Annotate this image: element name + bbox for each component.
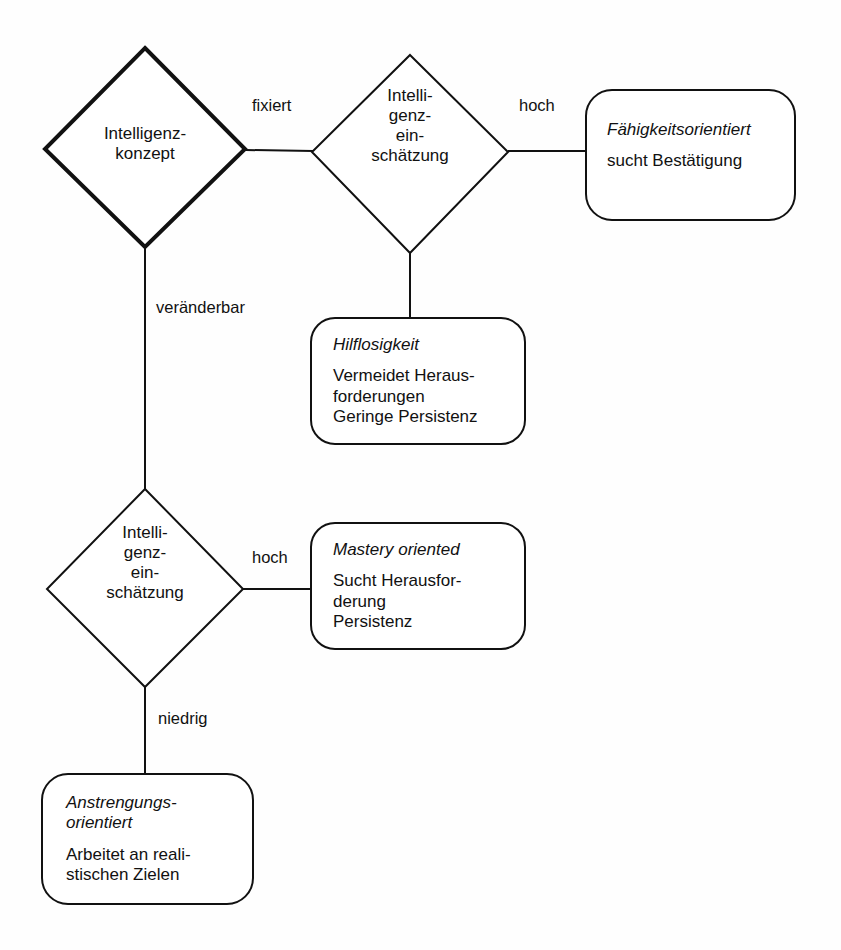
node-assessment-malleable-shape[interactable] xyxy=(47,489,243,687)
edge-label-fixiert: fixiert xyxy=(252,96,291,115)
ability-text-gap xyxy=(607,140,787,151)
node-outcome-effort-text: Anstrengungs- orientiert Arbeitet an rea… xyxy=(66,793,251,886)
node-outcome-effort-body: Arbeitet an reali- stischen Zielen xyxy=(66,845,251,886)
node-outcome-mastery-text: Mastery oriented Sucht Herausfor- derung… xyxy=(333,540,518,633)
edge-label-niedrig: niedrig xyxy=(158,709,208,728)
flowchart-canvas: Intelligenz- konzept Intelli- genz- ein-… xyxy=(0,0,841,950)
node-outcome-mastery-title: Mastery oriented xyxy=(333,540,518,560)
node-outcome-helpless-body: Vermeidet Heraus- forderungen Geringe Pe… xyxy=(333,366,518,427)
helpless-text-gap xyxy=(333,355,518,366)
edge-label-hoch-malleable: hoch xyxy=(252,548,288,567)
node-outcome-ability-title: Fähigkeitsorientiert xyxy=(607,120,787,140)
node-outcome-helpless-title: Hilflosigkeit xyxy=(333,335,518,355)
node-outcome-ability-text: Fähigkeitsorientiert sucht Bestätigung xyxy=(607,120,787,172)
mastery-text-gap xyxy=(333,560,518,571)
node-outcome-mastery-body: Sucht Herausfor- derung Persistenz xyxy=(333,571,518,632)
node-root-decision-shape[interactable] xyxy=(45,48,245,247)
node-outcome-effort-title: Anstrengungs- orientiert xyxy=(66,793,251,834)
effort-text-gap xyxy=(66,834,251,845)
edge-label-veraenderbar: veränderbar xyxy=(156,298,245,317)
edge-root-to-fixed-assessment xyxy=(246,150,313,151)
edge-label-hoch-fixed: hoch xyxy=(519,96,555,115)
node-outcome-ability-body: sucht Bestätigung xyxy=(607,151,787,171)
node-outcome-helpless-text: Hilflosigkeit Vermeidet Heraus- forderun… xyxy=(333,335,518,428)
node-assessment-fixed-shape[interactable] xyxy=(312,55,508,253)
